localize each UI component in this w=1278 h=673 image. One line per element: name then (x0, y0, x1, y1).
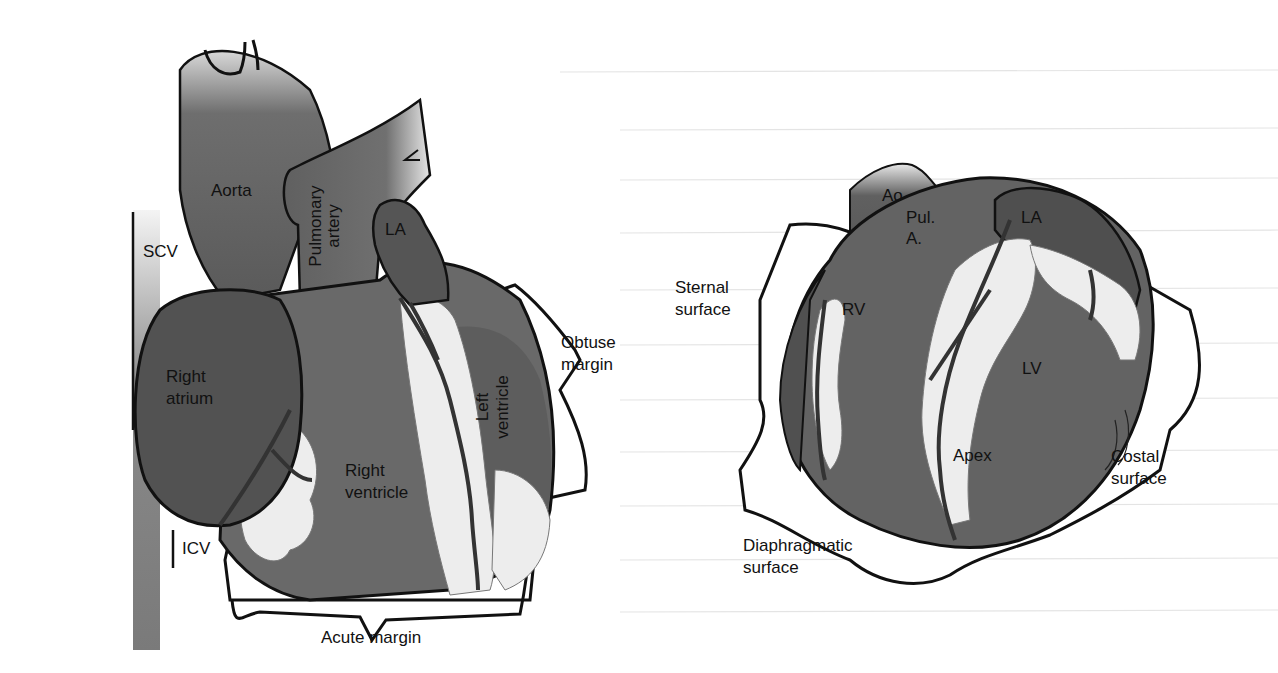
label-aorta: Aorta (211, 181, 252, 201)
heart-surfaces-figure: Ao Pul. A. LA Sternal surface RV LV Apex… (650, 0, 1278, 673)
label-scv: SCV (143, 242, 178, 262)
label-icv: ICV (182, 539, 210, 559)
heart-anterior-illustration (0, 0, 650, 673)
label-pulmonary-artery: Pulmonary artery (307, 156, 343, 296)
label-la-right: LA (1021, 208, 1042, 228)
label-rv: RV (842, 300, 865, 320)
label-obtuse-margin: Obtuse margin (561, 332, 616, 376)
label-lv: LV (1022, 359, 1042, 379)
label-right-ventricle: Right ventricle (345, 460, 408, 504)
label-left-ventricle: Left ventricle (473, 352, 513, 462)
label-pul-a: Pul. A. (906, 207, 935, 249)
right-atrium-shape (135, 290, 302, 526)
label-apex: Apex (953, 446, 992, 466)
heart-anterior-figure: Aorta Pulmonary artery LA SCV Right atri… (0, 0, 650, 673)
label-acute-margin: Acute margin (321, 628, 421, 648)
label-sternal-surface: Sternal surface (675, 277, 731, 321)
label-ao: Ao (882, 186, 903, 206)
label-costal-surface: Costal surface (1111, 446, 1167, 490)
label-right-atrium: Right atrium (166, 366, 213, 410)
label-la-left: LA (385, 220, 406, 240)
label-diaphragmatic-surface: Diaphragmatic surface (743, 535, 853, 579)
